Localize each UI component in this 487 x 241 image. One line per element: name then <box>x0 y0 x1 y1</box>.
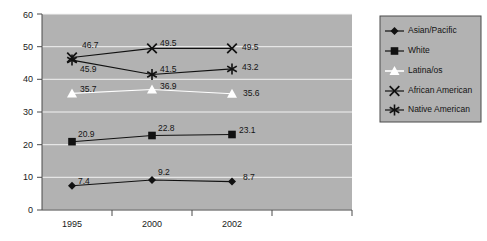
y-tick-label-40: 40 <box>23 74 33 84</box>
data-label-african-american-2000: 49.5 <box>160 38 177 48</box>
square-marker-icon <box>228 131 236 139</box>
y-tick-label-20: 20 <box>23 140 33 150</box>
data-label-african-american-2002: 49.5 <box>242 42 259 52</box>
square-marker-icon <box>391 47 399 55</box>
x-axis-tick-labels: 1995 2000 2002 <box>62 219 242 229</box>
data-label-white-2000: 22.8 <box>158 123 175 133</box>
legend-label-native-american: Native American <box>408 104 470 114</box>
x-tick-label-2002: 2002 <box>222 219 242 229</box>
data-label-white-2002: 23.1 <box>239 125 256 135</box>
data-label-asian-pacific-1995: 7.4 <box>78 176 90 186</box>
data-label-native-american-2000: 41.5 <box>160 64 177 74</box>
x-axis-ticks <box>112 210 352 216</box>
data-label-white-1995: 20.9 <box>78 129 95 139</box>
data-label-latinaos-2000: 36.9 <box>160 81 177 91</box>
chart-legend: Asian/Pacific White Latina/os <box>380 16 481 122</box>
data-label-native-american-1995: 45.9 <box>80 64 97 74</box>
y-axis-ticks <box>37 14 42 210</box>
x-tick-label-1995: 1995 <box>62 219 82 229</box>
data-label-asian-pacific-2000: 9.2 <box>158 167 170 177</box>
legend-label-white: White <box>408 45 430 55</box>
y-tick-label-60: 60 <box>23 10 33 20</box>
y-tick-label-10: 10 <box>23 172 33 182</box>
legend-label-asian-pacific: Asian/Pacific <box>408 25 457 35</box>
data-label-latinaos-2002: 35.6 <box>243 88 260 98</box>
data-label-native-american-2002: 43.2 <box>242 62 259 72</box>
chart-canvas: 0 10 20 30 40 50 60 1995 2000 2002 <box>0 0 487 241</box>
y-tick-label-30: 30 <box>23 107 33 117</box>
legend-label-latinaos: Latina/os <box>408 65 443 75</box>
data-label-latinaos-1995: 35.7 <box>80 84 97 94</box>
legend-item-african-american[interactable]: African American <box>385 85 473 96</box>
x-tick-label-2000: 2000 <box>142 219 162 229</box>
square-marker-icon <box>148 132 156 140</box>
line-chart: 0 10 20 30 40 50 60 1995 2000 2002 <box>0 0 487 241</box>
y-tick-label-0: 0 <box>28 205 33 215</box>
legend-label-african-american: African American <box>408 85 473 95</box>
square-marker-icon <box>68 138 76 146</box>
y-axis-tick-labels: 0 10 20 30 40 50 60 <box>23 10 33 216</box>
data-label-asian-pacific-2002: 8.7 <box>243 172 255 182</box>
data-label-african-american-1995: 46.7 <box>82 40 99 50</box>
y-tick-label-50: 50 <box>23 42 33 52</box>
